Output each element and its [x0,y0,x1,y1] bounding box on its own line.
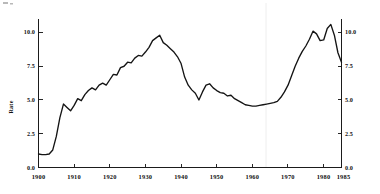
y-tick-label-right-4: 10.0 [345,28,356,35]
y-tick-label-right-1: 2.5 [345,130,353,137]
rate-series-line [39,24,342,154]
x-tick-label-1980: 1980 [317,173,331,180]
y-tick-label-left-2: 5.0 [27,96,35,103]
x-tick-label-1970: 1970 [281,173,295,180]
x-ticks [39,164,342,168]
x-tick-label-1940: 1940 [174,173,188,180]
x-tick-label-1900: 1900 [32,173,46,180]
y-tick-label-left-1: 2.5 [27,130,35,137]
chart-figure: 0.0 2.5 5.0 7.5 10.0 0.0 2.5 5.0 7.5 10.… [0,0,380,194]
y-axis-title: Rate [7,100,14,113]
left-y-ticks [39,32,43,167]
x-tick-label-1985: 1985 [337,173,351,180]
y-tick-label-right-0: 0.0 [345,164,353,171]
y-tick-label-left-4: 10.0 [24,28,35,35]
x-tick-label-1960: 1960 [246,173,260,180]
y-tick-label-right-3: 7.5 [345,62,353,69]
x-tick-label-1920: 1920 [103,173,117,180]
rate-line-chart: 0.0 2.5 5.0 7.5 10.0 0.0 2.5 5.0 7.5 10.… [0,0,380,194]
scan-speck [3,2,8,4]
y-tick-label-left-3: 7.5 [27,62,35,69]
x-tick-label-1930: 1930 [139,173,153,180]
y-tick-label-left-0: 0.0 [27,164,35,171]
x-tick-label-1910: 1910 [67,173,81,180]
y-tick-label-right-2: 5.0 [345,96,353,103]
x-tick-label-1950: 1950 [210,173,224,180]
scan-speck [10,3,13,5]
